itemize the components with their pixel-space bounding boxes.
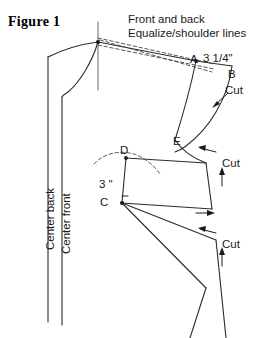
arrow-cut-middle-up (219, 167, 225, 186)
dot-shoulder-apex (96, 40, 100, 44)
front-armhole-curve (175, 61, 196, 140)
label-cut-upper: Cut (225, 84, 243, 96)
label-point-b: B (228, 68, 236, 80)
pattern-figure: Figure 1 Front and back Equalize/shoulde… (0, 0, 258, 338)
back-armhole-curve (62, 42, 98, 97)
label-dimension-d-to-c: 3 " (99, 178, 113, 190)
middle-panel-right-edge (206, 163, 212, 209)
label-point-e: E (173, 135, 181, 147)
label-dimension-a: 3 1/4" (203, 52, 233, 64)
back-neckline-curve (48, 42, 98, 57)
arrow-cut-lower-left (198, 226, 216, 233)
dot-point-c (120, 201, 124, 205)
outer-cut-curve-upper (175, 66, 232, 152)
label-point-d: D (120, 144, 128, 156)
label-point-a: A (190, 53, 198, 65)
dot-point-d (124, 156, 128, 160)
middle-panel-top-edge (126, 158, 206, 163)
label-center-back: Center back (44, 188, 56, 250)
label-cut-middle: Cut (222, 157, 240, 169)
shoulder-line-solid (98, 42, 196, 61)
pattern-drawing (0, 0, 258, 338)
arrow-middle-bottom-right (196, 210, 215, 216)
label-point-c: C (100, 196, 108, 208)
label-center-front: Center front (60, 193, 72, 254)
lower-wedge-lower-edge (122, 203, 206, 288)
arrow-cut-middle-left (198, 145, 216, 152)
lower-panel-inner-edge (190, 288, 206, 338)
label-cut-lower: Cut (222, 238, 240, 250)
